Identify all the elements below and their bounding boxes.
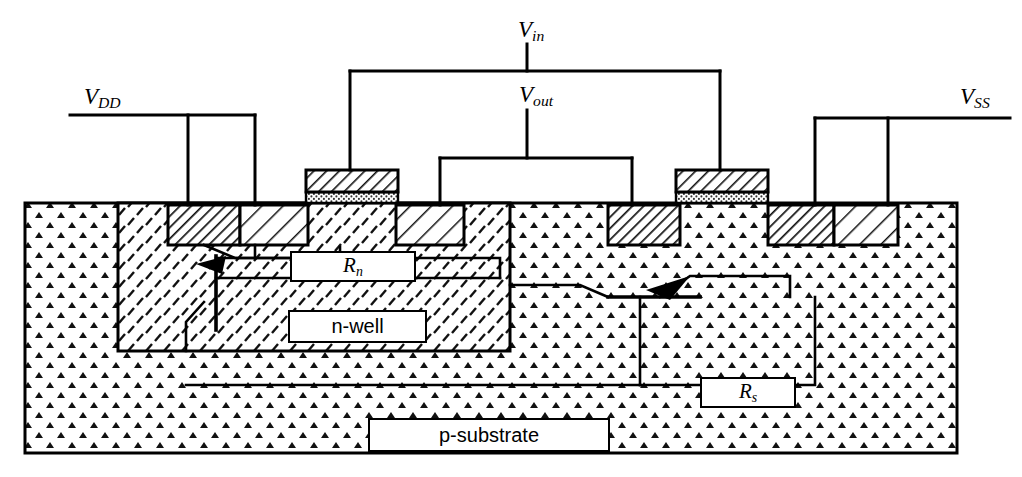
- gate-pmos: [306, 170, 398, 203]
- gate-oxide-nmos: [676, 192, 768, 203]
- diff-n-plus-2: [396, 205, 464, 245]
- wire-vdd: [70, 115, 255, 205]
- latchup-cross-section-svg: [0, 0, 1022, 477]
- terminal-label-vss: VSS: [960, 84, 990, 112]
- wire-vss: [815, 118, 1010, 205]
- diff-p-plus-right: [608, 205, 680, 245]
- terminal-label-vdd: VDD: [84, 84, 121, 112]
- gate-poly-nmos: [676, 170, 768, 192]
- gate-oxide-pmos: [306, 192, 398, 203]
- label-box-rn: Rn: [290, 251, 416, 282]
- wire-vout: [440, 110, 632, 205]
- label-box-nwell: n-well: [288, 310, 427, 343]
- gate-nmos: [676, 170, 768, 203]
- diff-n-plus-sub: [834, 205, 898, 245]
- figure-canvas: VDD Vin Vout VSS Rn n-well Rs p-substrat…: [0, 0, 1022, 477]
- label-box-rs: Rs: [700, 377, 796, 408]
- interconnect-wires: [70, 44, 1010, 205]
- diff-n-plus-1: [240, 205, 308, 245]
- terminal-label-vin: Vin: [518, 17, 544, 45]
- terminal-label-vout: Vout: [519, 82, 553, 110]
- label-box-psubstrate: p-substrate: [368, 418, 610, 452]
- diff-p-plus-sub: [768, 205, 834, 245]
- gate-poly-pmos: [306, 170, 398, 192]
- diff-p-plus-left: [168, 205, 240, 245]
